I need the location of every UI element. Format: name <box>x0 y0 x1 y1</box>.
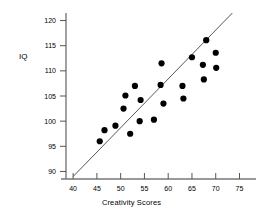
y-tick-label: 90 <box>48 168 56 175</box>
x-axis-title: Creativity Scores <box>0 198 263 207</box>
y-tick-label: 110 <box>45 67 56 74</box>
data-point <box>151 117 157 123</box>
data-point <box>213 65 219 71</box>
y-axis: 9095100105110115120 <box>44 13 66 179</box>
y-tick-label: 95 <box>48 143 56 150</box>
data-points <box>97 37 220 144</box>
plot-canvas: 9095100105110115120 4045505560657075 <box>0 0 263 216</box>
x-tick-label: 60 <box>164 185 172 192</box>
regression-line <box>73 13 232 176</box>
data-point <box>180 95 186 101</box>
data-point <box>200 62 206 68</box>
y-tick-label: 100 <box>44 118 56 125</box>
data-point <box>160 100 166 106</box>
data-point <box>213 50 219 56</box>
data-point <box>157 82 163 88</box>
data-point <box>120 105 126 111</box>
x-axis-ticks <box>73 173 239 179</box>
y-axis-ticks <box>60 21 66 172</box>
data-point <box>127 131 133 137</box>
x-tick-label: 45 <box>93 185 101 192</box>
y-tick-label: 115 <box>45 42 56 49</box>
data-point <box>179 83 185 89</box>
x-tick-label: 50 <box>117 185 125 192</box>
x-axis-tick-labels: 4045505560657075 <box>69 185 243 192</box>
data-point <box>201 76 207 82</box>
data-point <box>132 83 138 89</box>
data-point <box>158 60 164 66</box>
scatter-plot-figure: 9095100105110115120 4045505560657075 IQ … <box>0 0 263 216</box>
data-point <box>203 37 209 43</box>
x-tick-label: 55 <box>141 185 149 192</box>
x-tick-label: 75 <box>236 185 244 192</box>
data-point <box>112 123 118 129</box>
data-point <box>137 118 143 124</box>
y-tick-label: 105 <box>44 93 56 100</box>
y-tick-label: 120 <box>44 17 56 24</box>
data-point <box>101 127 107 133</box>
x-tick-label: 65 <box>188 185 196 192</box>
data-point <box>189 54 195 60</box>
trend-line-segment <box>73 13 232 176</box>
x-tick-label: 70 <box>212 185 220 192</box>
y-axis-title: IQ <box>19 52 28 61</box>
data-point <box>97 138 103 144</box>
y-axis-tick-labels: 9095100105110115120 <box>44 17 56 175</box>
data-point <box>122 92 128 98</box>
data-point <box>138 97 144 103</box>
x-axis: 4045505560657075 <box>61 173 256 192</box>
x-tick-label: 40 <box>69 185 77 192</box>
